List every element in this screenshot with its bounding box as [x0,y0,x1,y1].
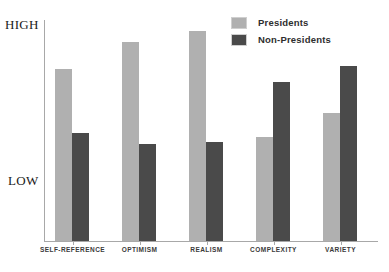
bar-group [323,20,358,241]
x-axis-line [44,241,378,242]
y-axis-label-high: HIGH [5,17,39,33]
bar-self-reference-non-presidents [72,133,89,241]
light-gray-swatch-icon [231,17,247,29]
bar-group [55,20,90,241]
x-axis-label-self-reference: SELF-REFERENCE [40,246,105,253]
bar-group [256,20,291,241]
x-axis-tick [207,241,208,245]
y-axis-label-low: LOW [8,173,39,189]
x-axis-tick [341,241,342,245]
x-axis-label-optimism: OPTIMISM [122,246,158,253]
legend-label: Presidents [258,17,309,28]
bar-self-reference-presidents [55,69,72,241]
bar-optimism-non-presidents [139,144,156,241]
bar-chart: HIGH LOW PresidentsNon-Presidents SELF-R… [0,0,389,272]
x-axis-label-complexity: COMPLEXITY [250,246,297,253]
dark-gray-swatch-icon [231,34,247,46]
legend-item: Presidents [231,14,331,31]
x-axis-tick [140,241,141,245]
bar-group [189,20,224,241]
bar-optimism-presidents [122,42,139,241]
x-axis-tick [274,241,275,245]
legend-item: Non-Presidents [231,31,331,48]
bar-variety-non-presidents [340,66,357,241]
x-axis-label-realism: REALISM [190,246,222,253]
bar-group [122,20,157,241]
legend-label: Non-Presidents [258,34,331,45]
x-axis-tick [73,241,74,245]
x-axis-label-variety: VARIETY [325,246,356,253]
bar-realism-presidents [189,31,206,241]
bar-complexity-presidents [256,137,273,241]
chart-legend: PresidentsNon-Presidents [231,14,331,48]
plot-area [44,20,378,241]
bar-realism-non-presidents [206,142,223,241]
bar-complexity-non-presidents [273,82,290,241]
bar-variety-presidents [323,113,340,241]
